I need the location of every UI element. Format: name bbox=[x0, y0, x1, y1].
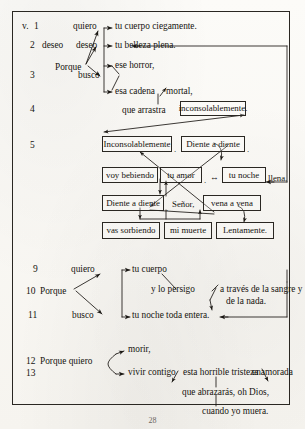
verb-quiero-1: quiero bbox=[73, 22, 97, 31]
box-diente-a-diente-r1: Diente a diente bbox=[181, 136, 245, 152]
object-4: esa cadena bbox=[115, 87, 155, 96]
box-tu-amor: tu amor bbox=[160, 167, 202, 183]
punct-r3: . bbox=[166, 204, 168, 213]
object-1: tu cuerpo ciegamente. bbox=[115, 22, 197, 31]
vocative-senor: Señor, bbox=[172, 200, 194, 209]
line-number-4: 4 bbox=[30, 105, 35, 115]
np-esta-horrible-tristeza: esta horrible tristeza bbox=[183, 368, 258, 377]
line-number-1: 1 bbox=[34, 22, 39, 32]
word-porque-3: Porque bbox=[40, 287, 66, 296]
clause-y-lo-persigo: y lo persigo bbox=[151, 285, 195, 294]
box-lentamente: Lentamente. bbox=[216, 222, 274, 239]
relative-clause-1: que abrazarás, oh Dios, bbox=[182, 388, 269, 397]
box-inconsolablemente-l4: inconsolablemente. bbox=[180, 101, 246, 116]
verb-deseo-1: deseo bbox=[76, 41, 97, 50]
tail-llena: llena. bbox=[268, 174, 287, 183]
line-number-11: 11 bbox=[28, 311, 37, 321]
verb-busco-3: busco bbox=[72, 311, 94, 320]
line-number-9: 9 bbox=[33, 265, 38, 275]
page-number: 28 bbox=[0, 416, 305, 425]
box-mi-muerte: mi muerte bbox=[164, 222, 212, 239]
object-4-mortal: mortal, bbox=[166, 87, 193, 96]
adjunct-line-2: de la nada. bbox=[226, 297, 266, 306]
verb-busco-1: busco bbox=[78, 71, 100, 80]
punct-r1-a: . bbox=[174, 145, 176, 154]
branch-vivir-contigo: vivir contigo bbox=[128, 368, 176, 377]
object-3: ese horror, bbox=[115, 61, 154, 70]
adjunct-line-1: a través de la sangre y bbox=[220, 285, 302, 294]
box-vas-sorbiendo: vas sorbiendo bbox=[102, 222, 160, 239]
word-deseo-left: deseo bbox=[42, 41, 63, 50]
line-number-12: 12 bbox=[26, 357, 36, 367]
verb-quiero-3: quiero bbox=[71, 265, 95, 274]
verse-marker: v. bbox=[22, 22, 29, 32]
punct-r1-b: . bbox=[247, 145, 249, 154]
box-vena-a-vena: vena a vena bbox=[203, 195, 261, 211]
box-voy-bebiendo: voy bebiendo bbox=[102, 167, 158, 183]
np-enamorada: enamorada bbox=[252, 368, 293, 377]
line-number-5: 5 bbox=[30, 141, 35, 151]
branch-morir: morir, bbox=[128, 345, 151, 354]
box-diente-a-diente-r3: Diente a diente bbox=[102, 195, 164, 211]
object-tu-cuerpo: tu cuerpo bbox=[132, 265, 167, 274]
punct-r2: . bbox=[204, 176, 206, 185]
bidirectional-arrow-glyph: ↔ bbox=[210, 173, 219, 182]
box-tu-noche: tu noche bbox=[222, 167, 266, 183]
box-inconsolablemente: Inconsolablemente bbox=[102, 136, 172, 152]
relative-que-arrastra: que arrastra bbox=[122, 106, 166, 115]
object-tu-noche-toda-entera: tu noche toda entera. bbox=[132, 311, 209, 320]
head-porque-quiero: Porque quiero bbox=[40, 357, 92, 366]
line-number-2: 2 bbox=[30, 41, 35, 51]
line-number-3: 3 bbox=[30, 71, 35, 81]
object-2: tu belleza plena. bbox=[115, 41, 176, 50]
line-number-13: 13 bbox=[26, 369, 36, 379]
line-number-10: 10 bbox=[26, 287, 36, 297]
relative-clause-2: cuando yo muera. bbox=[202, 407, 268, 416]
